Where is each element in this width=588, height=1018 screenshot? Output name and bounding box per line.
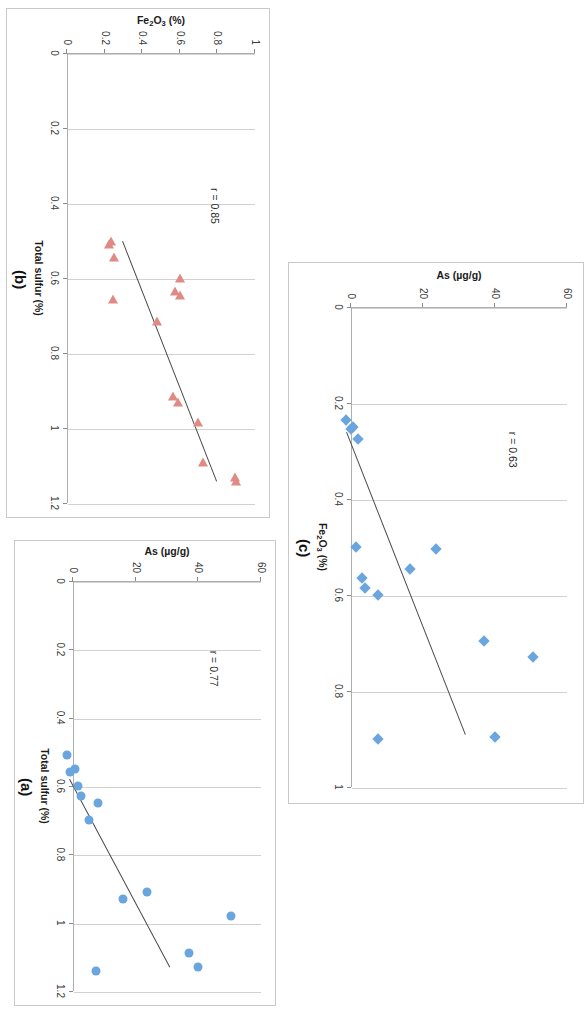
- gridline-vertical: [68, 354, 255, 355]
- x-tick-label: 0.2: [333, 396, 344, 410]
- data-point: [94, 799, 103, 808]
- gridline-vertical: [68, 429, 255, 430]
- panel-letter-label: (b): [12, 270, 29, 289]
- x-tickmark: [347, 595, 351, 596]
- x-tickmark: [69, 854, 73, 855]
- x-tickmark: [347, 403, 351, 404]
- data-point: [62, 751, 71, 760]
- y-tickmark: [422, 303, 423, 307]
- data-point: [108, 294, 118, 303]
- gridline-vertical: [352, 404, 567, 405]
- data-point: [142, 887, 151, 896]
- gridline-vertical: [352, 500, 567, 501]
- data-point: [104, 240, 114, 249]
- y-tick-label: 40: [490, 263, 501, 299]
- x-tick-label: 0.8: [49, 346, 60, 360]
- data-point: [109, 253, 119, 262]
- x-tickmark: [69, 923, 73, 924]
- x-tick-label: 1.2: [49, 496, 60, 510]
- y-tickmark: [216, 49, 217, 53]
- x-tickmark: [69, 649, 73, 650]
- x-tickmark: [347, 691, 351, 692]
- x-tick-label: 0: [49, 50, 60, 56]
- x-tickmark: [69, 991, 73, 992]
- correlation-annotation: r = 0.63: [507, 432, 519, 468]
- y-tickmark: [494, 303, 495, 307]
- x-tick-label: 0.6: [55, 779, 66, 793]
- data-point: [73, 782, 82, 791]
- x-tick-label: 0.2: [49, 121, 60, 135]
- y-tick-label: 0: [346, 263, 357, 299]
- gridline-vertical: [74, 992, 261, 993]
- y-axis-title: Fe2O3 (%): [137, 14, 185, 28]
- x-tickmark: [63, 503, 67, 504]
- data-point: [198, 457, 208, 466]
- panel-a: 00.20.40.60.811.20204060Total sulfur (%)…: [14, 540, 276, 1006]
- data-point: [173, 397, 183, 406]
- panel-c: 00.20.40.60.810204060Fe2O3 (%)As (µg/g)r…: [288, 262, 584, 804]
- data-point: [175, 274, 185, 283]
- x-tick-label: 0.6: [333, 588, 344, 602]
- plot-area-b: [67, 53, 255, 503]
- x-tickmark: [347, 307, 351, 308]
- gridline-vertical: [68, 204, 255, 205]
- y-tick-label: 0: [62, 9, 73, 45]
- y-tickmark: [104, 49, 105, 53]
- y-tickmark: [350, 303, 351, 307]
- y-tick-label: 60: [562, 263, 573, 299]
- data-point: [175, 290, 185, 299]
- y-tick-label: 40: [193, 541, 204, 573]
- y-tick-label: 0.8: [212, 9, 223, 45]
- x-tick-label: 0.4: [49, 196, 60, 210]
- gridline-vertical: [352, 596, 567, 597]
- plot-area-c: [351, 307, 567, 787]
- y-tick-label: 0: [68, 541, 79, 573]
- x-tick-label: 0.8: [333, 684, 344, 698]
- data-point: [84, 816, 93, 825]
- x-tick-label: 0.8: [55, 847, 66, 861]
- gridline-vertical: [352, 308, 567, 309]
- gridline-vertical: [68, 129, 255, 130]
- x-tickmark: [63, 203, 67, 204]
- data-point: [231, 476, 241, 485]
- y-tickmark: [135, 577, 136, 581]
- x-axis-title: Fe2O3 (%): [315, 523, 329, 571]
- x-tick-label: 0.6: [49, 271, 60, 285]
- x-axis-title: Total sulfur (%): [39, 748, 51, 824]
- gridline-vertical: [68, 54, 255, 55]
- y-tick-label: 1: [250, 9, 261, 45]
- x-tick-label: 0: [55, 578, 66, 584]
- gridline-vertical: [68, 504, 255, 505]
- y-axis-title: As (µg/g): [436, 269, 481, 281]
- x-tick-label: 1: [49, 425, 60, 431]
- y-tickmark: [197, 577, 198, 581]
- x-tickmark: [347, 787, 351, 788]
- x-tick-label: 0: [333, 304, 344, 310]
- x-tick-label: 1.2: [55, 984, 66, 998]
- y-tick-label: 0.2: [99, 9, 110, 45]
- y-tickmark: [66, 49, 67, 53]
- gridline-vertical: [352, 788, 567, 789]
- x-axis-title: Total sulfur (%): [33, 240, 45, 316]
- y-tick-label: 20: [418, 263, 429, 299]
- y-tickmark: [72, 577, 73, 581]
- gridline-vertical: [74, 855, 261, 856]
- data-point: [152, 317, 162, 326]
- x-tick-label: 0.4: [55, 711, 66, 725]
- y-tick-label: 60: [256, 541, 267, 573]
- panel-letter-label: (a): [18, 778, 35, 796]
- x-tick-label: 0.2: [55, 642, 66, 656]
- x-tickmark: [63, 353, 67, 354]
- y-tickmark: [260, 577, 261, 581]
- y-tickmark: [179, 49, 180, 53]
- x-tickmark: [63, 428, 67, 429]
- gridline-vertical: [74, 582, 261, 583]
- y-tick-label: 20: [130, 541, 141, 573]
- y-tickmark: [141, 49, 142, 53]
- y-tickmark: [566, 303, 567, 307]
- x-tick-label: 0.4: [333, 492, 344, 506]
- x-tick-label: 1: [333, 784, 344, 790]
- gridline-vertical: [352, 692, 567, 693]
- y-tickmark: [254, 49, 255, 53]
- figure-page: 00.20.40.60.811.200.20.40.60.81Total sul…: [0, 0, 588, 1018]
